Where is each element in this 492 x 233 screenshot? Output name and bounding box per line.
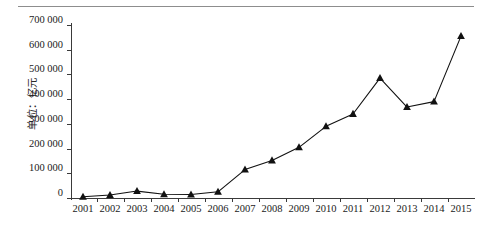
y-tick-label: 400 000 [29,88,63,99]
y-tick-mark [67,173,71,174]
y-tick-mark [67,74,71,75]
x-tick-label: 2008 [262,203,283,215]
y-tick-mark [67,124,71,125]
x-tick-label: 2006 [208,203,229,215]
page-top-rule [18,6,474,7]
x-tick-mark [394,198,395,202]
plot-area [71,25,475,198]
y-tick-label: 300 000 [29,113,63,124]
x-axis-tick-labels: 2001200220032004200520062007200820092010… [71,203,481,221]
y-tick-label: 0 [58,187,63,198]
y-axis-tick-labels: 0100 000200 000300 000400 000500 000600 … [0,19,68,204]
x-tick-label: 2004 [154,203,175,215]
data-point-marker [133,187,141,194]
x-axis-line [71,198,475,199]
data-point-marker [295,143,303,150]
x-tick-mark [124,198,125,202]
x-tick-mark [421,198,422,202]
data-point-marker [457,32,465,39]
x-tick-label: 2012 [370,203,391,215]
y-tick-mark [67,25,71,26]
x-tick-label: 2013 [397,203,418,215]
y-tick-mark [67,99,71,100]
x-tick-mark [286,198,287,202]
x-tick-label: 2014 [424,203,445,215]
y-tick-label: 500 000 [29,63,63,74]
series-line-chart [71,25,475,198]
chart-figure: 单位：亿元 0100 000200 000300 000400 000500 0… [0,0,492,233]
x-tick-mark [448,198,449,202]
x-tick-label: 2001 [73,203,94,215]
data-point-marker [268,156,276,163]
series-polyline [83,36,461,197]
x-tick-mark [178,198,179,202]
x-tick-label: 2007 [235,203,256,215]
x-tick-label: 2009 [289,203,310,215]
x-tick-mark [151,198,152,202]
x-tick-mark [340,198,341,202]
x-tick-mark [232,198,233,202]
data-point-marker [322,122,330,129]
x-tick-mark [97,198,98,202]
data-point-marker [214,188,222,195]
x-tick-label: 2002 [100,203,121,215]
y-tick-label: 700 000 [29,14,63,25]
y-tick-mark [67,149,71,150]
data-point-marker [376,74,384,81]
x-tick-label: 2005 [181,203,202,215]
x-tick-mark [367,198,368,202]
x-tick-label: 2003 [127,203,148,215]
y-tick-mark [67,50,71,51]
data-point-marker [430,98,438,105]
x-tick-mark [205,198,206,202]
x-tick-mark [259,198,260,202]
x-tick-label: 2015 [451,203,472,215]
x-tick-mark [313,198,314,202]
y-tick-label: 600 000 [29,39,63,50]
y-tick-label: 100 000 [29,162,63,173]
x-tick-label: 2010 [316,203,337,215]
y-tick-label: 200 000 [29,138,63,149]
y-tick-mark [67,198,71,199]
x-tick-label: 2011 [343,203,364,215]
